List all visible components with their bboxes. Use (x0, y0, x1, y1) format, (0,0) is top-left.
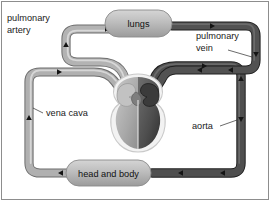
organ-node-lungs[interactable]: lungs (105, 10, 172, 37)
aorta-label: aorta (192, 121, 214, 131)
organ-node-head-and-body[interactable]: head and body (66, 160, 151, 186)
pulmonary-artery-label-line1: pulmonary (7, 13, 50, 23)
head-and-body-label: head and body (78, 169, 139, 179)
circulatory-system-diagram: lungs head and body pulmonary artery pul… (0, 0, 270, 201)
pulmonary-artery-label-line2: artery (7, 25, 31, 35)
heart-valve-right-lobe (140, 84, 159, 107)
heart-organ (111, 74, 165, 152)
pulmonary-vein-label-line1: pulmonary (196, 31, 239, 41)
diagram-canvas: lungs head and body pulmonary artery pul… (0, 0, 270, 201)
pulmonary-vein-label-line2: vein (196, 43, 213, 53)
lungs-label: lungs (128, 19, 150, 29)
vena-cava-label: vena cava (46, 108, 89, 118)
